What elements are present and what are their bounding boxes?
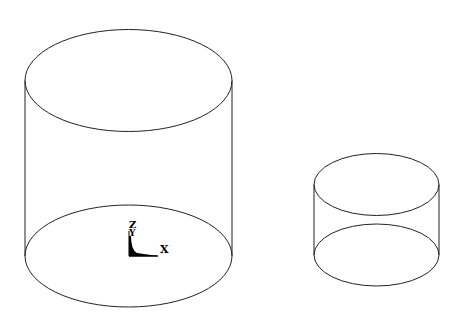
triad-fill-icon: [129, 236, 158, 256]
diagram-canvas: Z Y X: [0, 0, 465, 334]
axis-triad: Z Y X: [128, 219, 169, 256]
small-cylinder-top: [314, 154, 439, 216]
large-cylinder: [25, 30, 232, 308]
small-cylinder: [314, 154, 439, 287]
x-axis-label: X: [160, 243, 169, 256]
small-cylinder-bottom: [314, 224, 439, 286]
y-axis-label: Y: [128, 228, 136, 238]
large-cylinder-top: [25, 30, 232, 132]
